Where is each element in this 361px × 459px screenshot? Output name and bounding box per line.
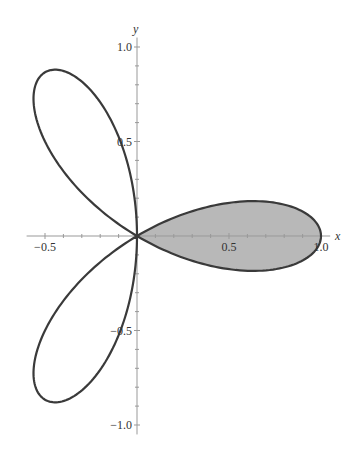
y-tick-label: 1.0: [117, 40, 132, 54]
y-tick-label: −0.5: [110, 324, 132, 338]
x-tick-label: 1.0: [314, 240, 329, 254]
y-tick-label: −1.0: [110, 418, 132, 432]
y-axis-label: y: [132, 22, 139, 36]
x-axis-label: x: [334, 229, 341, 243]
axes: [27, 38, 331, 435]
y-tick-label: 0.5: [117, 135, 132, 149]
x-tick-label: 0.5: [222, 240, 237, 254]
x-tick-label: −0.5: [34, 240, 56, 254]
polar-plot: −0.50.51.01.00.5−0.5−1.0 x y: [0, 0, 361, 459]
